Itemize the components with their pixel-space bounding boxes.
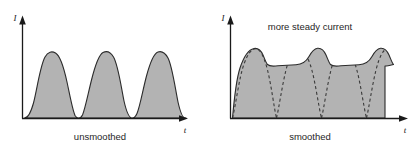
x-axis-arrow-icon (399, 115, 408, 122)
caption-smoothed: smoothed (289, 131, 331, 142)
y-axis-arrow-icon (19, 16, 26, 25)
y-axis-label-unsmoothed: I (13, 13, 18, 23)
y-axis-arrow-icon (227, 16, 234, 25)
waveform-unsmoothed (25, 52, 187, 118)
x-axis-arrow-icon (179, 115, 188, 122)
y-axis-label-smoothed: I (221, 13, 226, 23)
panel-smoothed: I t more steady current smoothed (208, 0, 416, 150)
annotation-more-steady-current: more steady current (268, 21, 353, 32)
panel-unsmoothed: I t unsmoothed (0, 0, 208, 150)
waveform-smoothed (233, 48, 394, 118)
rectifier-waveform-figure: I t unsmoothed (0, 0, 416, 150)
y-axis-unsmoothed (19, 16, 26, 119)
caption-unsmoothed: unsmoothed (74, 131, 126, 142)
x-axis-label-smoothed: t (404, 125, 407, 135)
y-axis-smoothed (227, 16, 234, 119)
x-axis-label-unsmoothed: t (184, 125, 187, 135)
